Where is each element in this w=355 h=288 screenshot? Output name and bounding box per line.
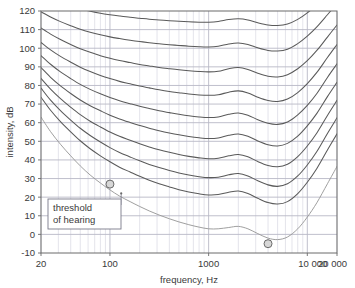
y-tick-label: 50 bbox=[24, 136, 35, 147]
x-tick-label: 20 000 bbox=[318, 258, 347, 269]
x-tick-label: 1000 bbox=[198, 258, 219, 269]
x-tick-label: 20 bbox=[36, 258, 47, 269]
y-tick-label: 70 bbox=[24, 98, 35, 109]
y-tick-label: -10 bbox=[21, 247, 35, 258]
y-axis-title: intensity, dB bbox=[4, 106, 15, 157]
x-tick-label: 100 bbox=[102, 258, 118, 269]
annotation-anchor-dot bbox=[120, 192, 122, 194]
y-tick-label: 60 bbox=[24, 117, 35, 128]
x-axis-title: frequency, Hz bbox=[160, 274, 218, 285]
chart-canvas: 20100100010 00020 000 -10010203040506070… bbox=[0, 0, 355, 288]
y-tick-label: 0 bbox=[30, 229, 35, 240]
y-tick-label: 30 bbox=[24, 173, 35, 184]
y-tick-label: 40 bbox=[24, 154, 35, 165]
annotation-line-1: threshold bbox=[53, 202, 92, 213]
chart-background bbox=[0, 0, 355, 288]
y-tick-label: 80 bbox=[24, 80, 35, 91]
y-tick-label: 20 bbox=[24, 192, 35, 203]
equal-loudness-contour-chart: 20100100010 00020 000 -10010203040506070… bbox=[0, 0, 355, 288]
y-tick-label: 100 bbox=[19, 43, 35, 54]
y-tick-label: 90 bbox=[24, 61, 35, 72]
y-tick-label: 120 bbox=[19, 5, 35, 16]
y-tick-label: 10 bbox=[24, 210, 35, 221]
annotation-line-2: of hearing bbox=[53, 214, 95, 225]
data-marker bbox=[264, 240, 272, 248]
data-marker bbox=[106, 180, 114, 188]
y-tick-label: 110 bbox=[20, 24, 35, 35]
